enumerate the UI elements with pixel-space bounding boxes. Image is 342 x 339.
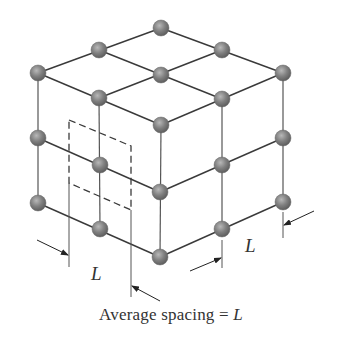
dimension-label-right: L <box>244 235 256 256</box>
atom-top-right-back <box>214 42 230 58</box>
caption: Average spacing = L <box>0 305 342 325</box>
dimension-label-left: L <box>90 263 102 284</box>
atom-mid-right <box>275 130 291 146</box>
arrow-icon <box>284 211 314 225</box>
dimension-arrows <box>37 211 314 301</box>
atom-top-left-back <box>91 42 107 58</box>
atom-top-front-right <box>214 91 230 107</box>
atom-bot-right <box>275 194 291 210</box>
atom-top-front-left <box>91 90 107 106</box>
atom-mid-left <box>30 130 46 146</box>
atom-top-left <box>30 65 46 81</box>
atom-top-right <box>275 65 291 81</box>
vertical-bonds <box>38 73 283 257</box>
atom-mid-front <box>152 184 168 200</box>
atom-top-back <box>153 20 169 36</box>
arrow-icon <box>190 258 221 271</box>
caption-variable: L <box>233 305 243 324</box>
arrow-icon <box>37 240 68 255</box>
arrow-icon <box>132 286 160 301</box>
atom-bot-left <box>30 195 46 211</box>
atom-bot-front <box>152 249 168 265</box>
atom-bot-front-right <box>214 221 230 237</box>
atom-bot-front-left <box>92 221 108 237</box>
atom-mid-front-right <box>214 157 230 173</box>
atom-mid-front-left <box>92 157 108 173</box>
caption-text: Average spacing = <box>99 305 233 324</box>
atom-top-center <box>153 67 169 83</box>
cubic-lattice-diagram: L L <box>0 0 342 339</box>
atom-top-front <box>153 117 169 133</box>
